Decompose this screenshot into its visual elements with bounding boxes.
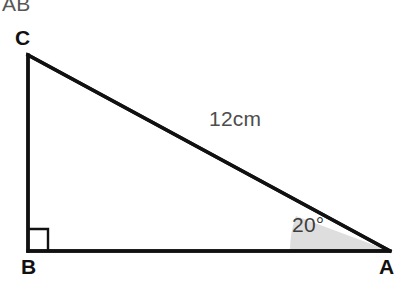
hypotenuse-length-label: 12cm [209, 107, 261, 131]
triangle-diagram-svg [0, 0, 410, 307]
right-angle-marker-b [28, 229, 48, 251]
angle-value-label-a: 20° [292, 213, 324, 237]
vertex-label-a: A [379, 255, 394, 279]
partial-top-text: AB [2, 0, 30, 16]
vertex-label-c: C [15, 26, 30, 50]
vertex-label-b: B [21, 255, 36, 279]
edge-ca-hypotenuse [28, 55, 390, 251]
geometry-figure: AB 12cm 20° C B A [0, 0, 410, 307]
